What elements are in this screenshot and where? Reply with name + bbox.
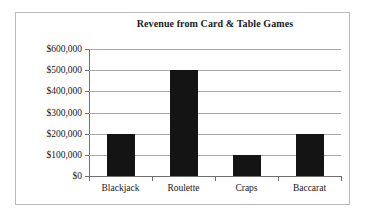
x-axis-tick [152, 177, 153, 181]
y-axis-tick-label: $500,000 [46, 65, 82, 75]
chart-frame: Revenue from Card & Table Games $0$100,0… [15, 12, 350, 205]
y-axis-tick-label: $100,000 [46, 150, 82, 160]
y-axis-tick [85, 49, 89, 50]
x-axis-label-baccarat: Baccarat [278, 183, 341, 193]
y-axis-tick-label: $200,000 [46, 129, 82, 139]
chart-figure: Revenue from Card & Table Games $0$100,0… [0, 0, 368, 218]
y-axis-tick [85, 134, 89, 135]
bar-craps [233, 155, 261, 176]
gridline [89, 113, 341, 114]
bar-roulette [170, 70, 198, 176]
plot-area: $0$100,000$200,000$300,000$400,000$500,0… [89, 49, 341, 176]
y-axis-tick [85, 70, 89, 71]
y-axis-tick [85, 91, 89, 92]
bar-baccarat [296, 134, 324, 176]
chart-title: Revenue from Card & Table Games [89, 18, 341, 29]
gridline [89, 49, 341, 50]
y-axis-tick [85, 155, 89, 156]
x-axis-tick [278, 177, 279, 181]
x-axis-label-roulette: Roulette [152, 183, 215, 193]
bar-blackjack [107, 134, 135, 176]
y-axis-tick-label: $400,000 [46, 86, 82, 96]
y-axis-tick-label: $300,000 [46, 108, 82, 118]
y-axis-tick [85, 113, 89, 114]
x-axis-tick [215, 177, 216, 181]
gridline [89, 70, 341, 71]
x-axis-label-blackjack: Blackjack [89, 183, 152, 193]
x-axis-tick [89, 177, 90, 181]
y-axis-tick-label: $600,000 [46, 44, 82, 54]
x-axis-label-craps: Craps [215, 183, 278, 193]
gridline [89, 91, 341, 92]
y-axis-tick-label: $0 [73, 171, 83, 181]
x-axis-tick [341, 177, 342, 181]
